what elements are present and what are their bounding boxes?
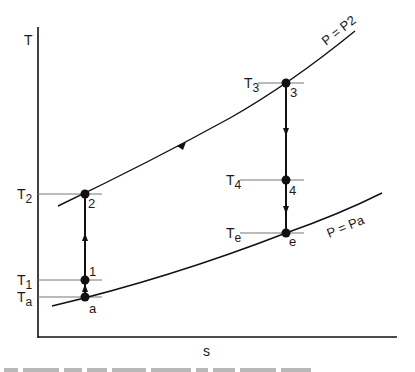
label-ta: Ta (17, 289, 33, 309)
temperature-guides (38, 83, 304, 297)
x-axis-label: s (203, 343, 210, 359)
label-te: Te (226, 225, 242, 245)
figure-caption-truncated (4, 363, 414, 372)
label-point-1: 1 (89, 264, 96, 279)
label-t3: T3 (244, 75, 260, 95)
label-point-4: 4 (289, 183, 296, 198)
curve-pa (52, 193, 382, 306)
arrow-a-1 (82, 284, 88, 292)
arrow-2-3 (177, 142, 186, 150)
label-point-e: e (289, 234, 296, 249)
arrow-3-4 (283, 128, 289, 136)
t-s-diagram: T s 2 1 a 3 4 e T2 T1 Ta T3 T4 Te (0, 0, 415, 372)
curve-p2 (58, 31, 355, 206)
label-t4: T4 (226, 172, 242, 192)
label-curve-p2: P = P2 (319, 12, 359, 48)
label-point-2: 2 (88, 196, 95, 211)
arrow-4-e (283, 206, 289, 214)
y-axis-label: T (24, 32, 33, 48)
label-point-a: a (89, 301, 97, 316)
arrow-1-2 (82, 233, 88, 241)
label-t2: T2 (17, 186, 33, 206)
label-point-3: 3 (290, 85, 297, 100)
